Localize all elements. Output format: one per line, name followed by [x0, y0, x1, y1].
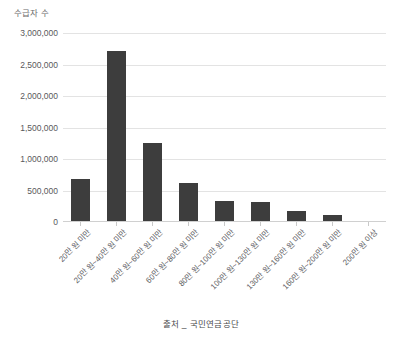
x-axis-tick-mark [152, 222, 153, 226]
x-axis-tick-mark [332, 222, 333, 226]
y-axis-tick-label: 1,000,000 [0, 154, 58, 164]
x-axis-tick-marks [63, 222, 386, 227]
x-axis-tick-label: 20만 원 미만 [56, 227, 93, 264]
bar-slot [171, 33, 207, 222]
y-axis-tick-label: 2,000,000 [0, 91, 58, 101]
tick-slot [278, 222, 314, 227]
tick-slot [171, 222, 207, 227]
y-axis-tick-label: 2,500,000 [0, 60, 58, 70]
x-axis-tick-mark [80, 222, 81, 226]
bar-slot [207, 33, 243, 222]
bar-slot [278, 33, 314, 222]
y-axis-tick-label: 1,500,000 [0, 123, 58, 133]
x-axis-tick-mark [368, 222, 369, 226]
tick-slot [314, 222, 350, 227]
tick-slot [99, 222, 135, 227]
tick-slot [242, 222, 278, 227]
y-axis-tick-labels: 0500,0001,000,0001,500,0002,000,0002,500… [0, 33, 58, 222]
x-axis-tick-mark [224, 222, 225, 226]
y-axis-tick-label: 0 [0, 217, 58, 227]
plot-area [63, 33, 386, 222]
tick-slot [207, 222, 243, 227]
x-axis-tick-mark [116, 222, 117, 226]
y-axis-tick-label: 3,000,000 [0, 28, 58, 38]
y-axis-title: 수급자 수 [14, 6, 49, 18]
bar [251, 202, 270, 222]
bar-chart: 수급자 수 0500,0001,000,0001,500,0002,000,00… [0, 0, 402, 341]
bar [179, 183, 198, 222]
tick-slot [63, 222, 99, 227]
bar-slot [350, 33, 386, 222]
bar-slot [242, 33, 278, 222]
y-axis-tick-label: 500,000 [0, 186, 58, 196]
source-note: 출처 _ 국민연금공단 [0, 317, 402, 329]
bar [71, 179, 90, 222]
x-axis-tick-label: 200만 원 이상 [340, 227, 380, 267]
x-axis-tick-mark [296, 222, 297, 226]
tick-slot [135, 222, 171, 227]
tick-slot [350, 222, 386, 227]
bar-series [63, 33, 386, 222]
x-axis-tick-mark [260, 222, 261, 226]
bar-slot [135, 33, 171, 222]
bar-slot [314, 33, 350, 222]
bar [215, 201, 234, 222]
bar-slot [99, 33, 135, 222]
bar [143, 143, 162, 222]
x-axis-tick-mark [188, 222, 189, 226]
bar-slot [63, 33, 99, 222]
bar [107, 51, 126, 222]
